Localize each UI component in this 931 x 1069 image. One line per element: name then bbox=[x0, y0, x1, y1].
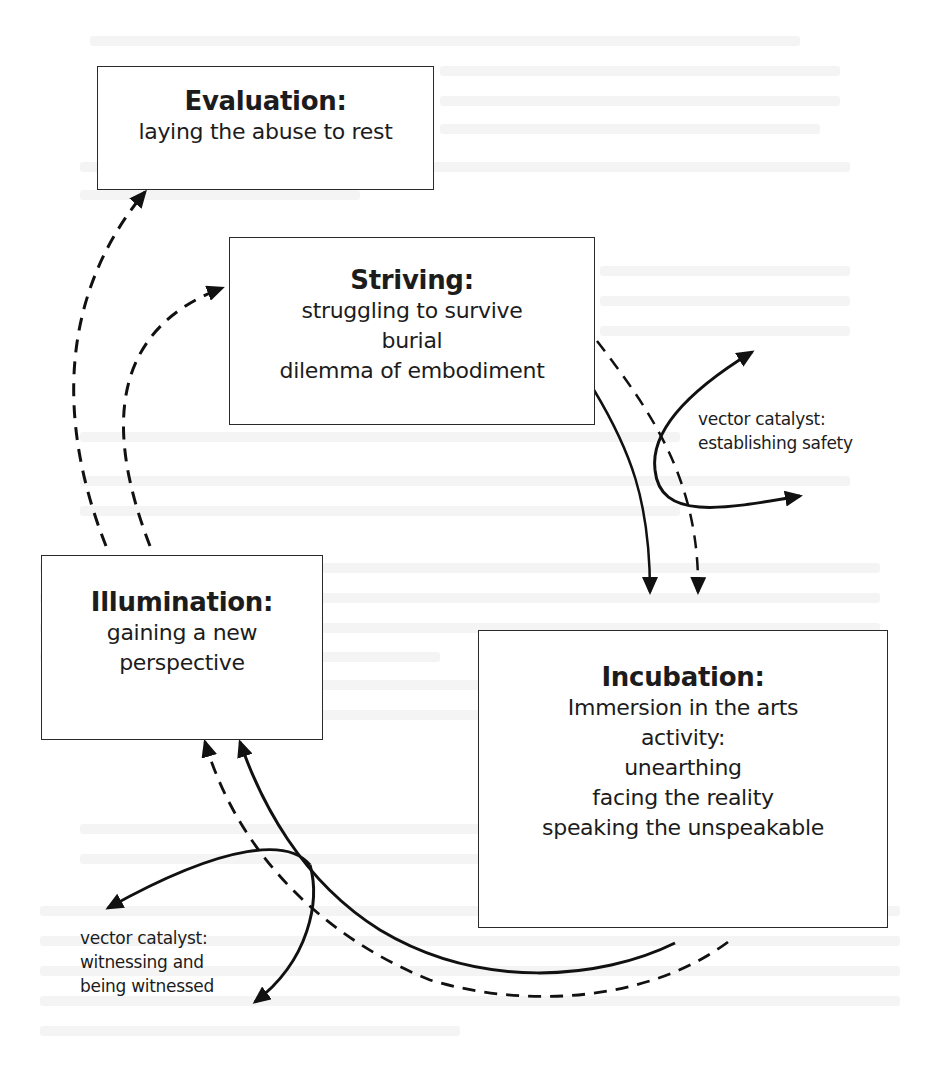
catalyst-witnessing-line: being witnessed bbox=[80, 974, 214, 998]
node-evaluation-line: laying the abuse to rest bbox=[138, 117, 392, 147]
arrow-catalyst-witnessing-left bbox=[108, 850, 310, 908]
node-incubation: Incubation: Immersion in the arts activi… bbox=[478, 630, 888, 928]
node-incubation-line: unearthing bbox=[624, 753, 742, 783]
node-striving-line: dilemma of embodiment bbox=[280, 356, 545, 386]
arrow-striving-to-incubation-solid bbox=[594, 390, 650, 592]
node-incubation-line: facing the reality bbox=[592, 783, 773, 813]
node-striving: Striving: struggling to survive burial d… bbox=[229, 237, 595, 425]
catalyst-witnessing-line: witnessing and bbox=[80, 950, 214, 974]
node-illumination-line: perspective bbox=[119, 648, 245, 678]
catalyst-safety-label: vector catalyst: establishing safety bbox=[698, 407, 853, 455]
node-incubation-title: Incubation: bbox=[601, 661, 764, 693]
catalyst-witnessing-line: vector catalyst: bbox=[80, 926, 214, 950]
node-illumination-title: Illumination: bbox=[91, 586, 273, 618]
node-striving-title: Striving: bbox=[350, 264, 474, 296]
node-incubation-line: activity: bbox=[641, 723, 725, 753]
node-illumination: Illumination: gaining a new perspective bbox=[41, 555, 323, 740]
node-incubation-line: Immersion in the arts bbox=[568, 693, 798, 723]
catalyst-safety-line: vector catalyst: bbox=[698, 407, 853, 431]
node-striving-line: burial bbox=[382, 326, 443, 356]
arrow-illumination-to-striving bbox=[123, 288, 222, 546]
node-striving-line: struggling to survive bbox=[301, 296, 522, 326]
arrow-catalyst-witnessing-down bbox=[255, 865, 313, 1002]
catalyst-witnessing-label: vector catalyst: witnessing and being wi… bbox=[80, 926, 214, 998]
catalyst-safety-line: establishing safety bbox=[698, 431, 853, 455]
node-incubation-line: speaking the unspeakable bbox=[542, 813, 824, 843]
node-evaluation: Evaluation: laying the abuse to rest bbox=[97, 66, 434, 190]
node-illumination-line: gaining a new bbox=[107, 618, 258, 648]
node-evaluation-title: Evaluation: bbox=[184, 85, 346, 117]
arrow-catalyst-safety-right bbox=[655, 470, 800, 507]
